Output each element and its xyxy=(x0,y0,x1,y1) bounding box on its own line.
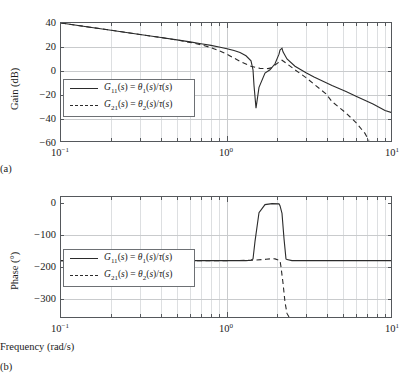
gain-xtick-label: 100 xyxy=(219,145,233,158)
legend-item: G21(s) = θ2(s)/τ(s) xyxy=(64,97,194,114)
gain-ytick-label: 20 xyxy=(20,41,56,52)
gain-xtick-label: 10−1 xyxy=(51,145,69,158)
legend-label: G21(s) = θ2(s)/τ(s) xyxy=(104,269,172,282)
gain-legend: G11(s) = θ1(s)/τ(s) G21(s) = θ2(s)/τ(s) xyxy=(63,79,195,117)
gain-ytick-label: −20 xyxy=(20,89,56,100)
phase-legend: G11(s) = θ1(s)/τ(s) G21(s) = θ2(s)/τ(s) xyxy=(63,249,195,287)
bode-plot-figure: Gain (dB) 40 20 0 −20 −40 −60 xyxy=(0,0,409,382)
gain-ytick-label: 40 xyxy=(20,17,56,28)
gain-xtick-label: 101 xyxy=(385,145,399,158)
legend-label: G11(s) = θ1(s)/τ(s) xyxy=(104,82,172,95)
legend-label: G11(s) = θ1(s)/τ(s) xyxy=(104,252,172,265)
gain-y-axis-title: Gain (dB) xyxy=(9,68,20,110)
phase-ytick-label: −200 xyxy=(20,261,56,272)
gain-ytick-label: −40 xyxy=(20,113,56,124)
legend-line-sample-solid xyxy=(70,88,98,89)
legend-line-sample-dashed xyxy=(70,275,98,276)
legend-line-sample-solid xyxy=(70,258,98,259)
legend-item: G21(s) = θ2(s)/τ(s) xyxy=(64,267,194,284)
phase-xtick-label: 100 xyxy=(219,321,233,334)
phase-xtick-label: 10−1 xyxy=(51,321,69,334)
legend-item: G11(s) = θ1(s)/τ(s) xyxy=(64,80,194,97)
legend-label: G21(s) = θ2(s)/τ(s) xyxy=(104,99,172,112)
phase-ytick-label: 0 xyxy=(20,197,56,208)
gain-ytick-label: 0 xyxy=(20,65,56,76)
phase-xtick-label: 101 xyxy=(385,321,399,334)
phase-ytick-label: −100 xyxy=(20,229,56,240)
legend-line-sample-dashed xyxy=(70,105,98,106)
phase-y-axis-title: Phase (°) xyxy=(9,252,20,290)
legend-item: G11(s) = θ1(s)/τ(s) xyxy=(64,250,194,267)
phase-ytick-label: −300 xyxy=(20,293,56,304)
